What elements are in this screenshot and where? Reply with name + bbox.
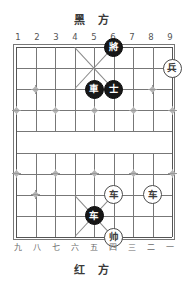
position-marker-6 (168, 106, 177, 115)
file-line-3-top (55, 47, 56, 131)
file-label-1: 1 (11, 31, 25, 43)
position-marker-12 (31, 190, 40, 199)
file-label-5: 5 (87, 31, 101, 43)
position-marker-11 (168, 169, 177, 178)
marker-diamond (90, 170, 97, 177)
file-label-9: 一 (163, 242, 177, 254)
piece-black-general[interactable]: 將 (104, 38, 123, 57)
marker-diamond (129, 170, 136, 177)
rank-line-4 (16, 131, 172, 132)
marker-diamond (51, 170, 58, 177)
file-label-9: 9 (163, 31, 177, 43)
file-label-5: 五 (87, 242, 101, 254)
file-label-3: 七 (49, 242, 63, 254)
file-line-7-bottom (133, 153, 134, 237)
position-marker-9 (90, 169, 99, 178)
marker-diamond (168, 170, 175, 177)
file-label-2: 2 (30, 31, 44, 43)
marker-diamond (51, 107, 58, 114)
black-side-title: 黑 方 (0, 11, 188, 27)
piece-red-soldier-right[interactable]: 兵 (163, 59, 182, 78)
rank-line-9 (16, 237, 172, 238)
position-marker-4 (90, 106, 99, 115)
file-label-2: 八 (30, 242, 44, 254)
position-marker-5 (129, 106, 138, 115)
marker-diamond (149, 86, 156, 93)
marker-diamond (32, 191, 39, 198)
position-marker-7 (12, 169, 21, 178)
file-label-1: 九 (11, 242, 25, 254)
file-label-4: 六 (68, 242, 82, 254)
marker-diamond (168, 107, 175, 114)
piece-black-chariot-top[interactable]: 車 (85, 80, 104, 99)
piece-black-advisor[interactable]: 士 (104, 80, 123, 99)
file-line-1 (16, 47, 17, 237)
marker-diamond (12, 107, 19, 114)
file-label-4: 4 (68, 31, 82, 43)
position-marker-2 (12, 106, 21, 115)
file-label-6: 四 (106, 242, 120, 254)
file-label-8: 二 (144, 242, 158, 254)
xiangqi-board[interactable]: 將兵車士车车车帅 (16, 47, 172, 237)
position-marker-10 (129, 169, 138, 178)
file-label-8: 8 (144, 31, 158, 43)
file-label-7: 7 (125, 31, 139, 43)
file-labels-bottom: 九八七六五四三二一 (0, 242, 188, 254)
position-marker-3 (51, 106, 60, 115)
file-label-7: 三 (125, 242, 139, 254)
file-label-3: 3 (49, 31, 63, 43)
marker-diamond (129, 107, 136, 114)
red-side-title: 红 方 (0, 261, 188, 277)
position-marker-8 (51, 169, 60, 178)
marker-diamond (90, 107, 97, 114)
file-line-7-top (133, 47, 134, 131)
position-marker-0 (31, 85, 40, 94)
marker-diamond (12, 170, 19, 177)
piece-black-chariot-bot[interactable]: 车 (85, 206, 104, 225)
position-marker-1 (148, 85, 157, 94)
file-labels-top: 123456789 (0, 31, 188, 43)
marker-diamond (32, 86, 39, 93)
file-line-3-bottom (55, 153, 56, 237)
